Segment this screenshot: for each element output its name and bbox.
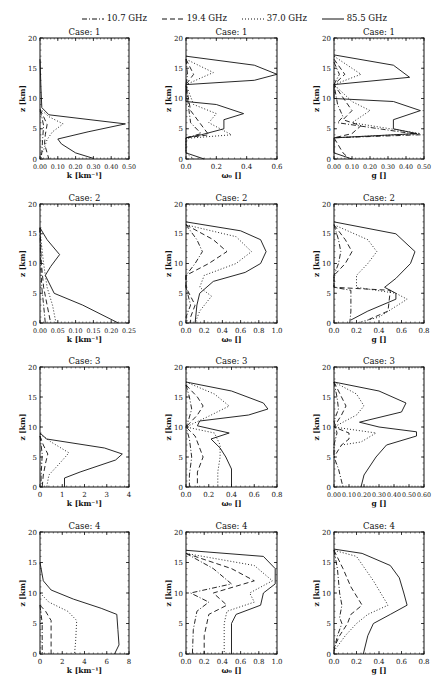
y-tick-label: 5 [33, 125, 37, 133]
y-tick-label: 15 [322, 394, 331, 402]
panel-title: Case: 1 [363, 27, 395, 37]
x-tick-label: 0.6 [271, 163, 283, 171]
series-line-107ghz [186, 385, 192, 487]
x-tick-label: 0.0 [180, 658, 191, 666]
series-line-194ghz [334, 59, 361, 158]
x-tick-label: 0.20 [357, 491, 371, 498]
x-tick-label: 0.00 [33, 163, 47, 170]
series-line-370ghz [186, 553, 272, 654]
x-axis-label: g [] [372, 666, 387, 675]
x-tick-label: 6 [105, 658, 110, 666]
x-axis-label: g [] [372, 499, 387, 508]
x-tick-label: 0.40 [387, 491, 401, 498]
y-axis-label: z [km] [164, 85, 173, 112]
y-tick-label: 0 [33, 484, 37, 492]
x-axis-label: k [km⁻¹] [67, 666, 102, 675]
x-axis-label: ω₀ [] [221, 499, 241, 508]
x-tick-label: 0.20 [363, 163, 377, 170]
y-tick-label: 15 [322, 65, 331, 73]
series-line-370ghz [186, 225, 252, 323]
y-tick-label: 5 [33, 454, 37, 462]
x-tick-label: 8 [127, 658, 131, 666]
x-tick-label: 0.20 [69, 163, 83, 170]
series-line-370ghz [186, 382, 229, 487]
plot-frame [186, 38, 277, 159]
x-tick-label: 0.8 [253, 327, 264, 335]
series-line-370ghz [40, 593, 77, 654]
series-line-855ghz [334, 222, 415, 320]
y-tick-label: 20 [322, 35, 331, 43]
x-axis-label: g [] [372, 171, 387, 180]
series-line-855ghz [40, 563, 119, 655]
y-tick-label: 15 [174, 230, 183, 238]
x-tick-label: 0.8 [271, 491, 282, 499]
x-tick-label: 0.2 [351, 327, 362, 335]
x-tick-label: 0.2 [351, 658, 362, 666]
x-axis-label: ω₀ [] [221, 335, 241, 344]
x-tick-label: 0.2 [199, 327, 210, 335]
x-tick-label: 0.50 [417, 163, 431, 170]
y-tick-label: 20 [174, 35, 183, 43]
x-tick-label: 0.2 [203, 491, 214, 499]
y-axis-label: z [km] [18, 250, 27, 277]
figure-panels-grid: Case: 1051015200.000.100.200.300.400.50k… [0, 0, 445, 687]
plot-frame [40, 367, 129, 487]
series-line-855ghz [334, 55, 420, 159]
plot-frame [186, 204, 277, 323]
y-tick-label: 5 [327, 620, 331, 628]
series-line-370ghz [186, 59, 232, 159]
y-tick-label: 10 [174, 95, 183, 103]
x-axis-label: k [km⁻¹] [67, 171, 102, 180]
x-tick-label: 0.10 [69, 327, 83, 334]
panel-title: Case: 3 [363, 356, 395, 366]
y-tick-label: 10 [28, 424, 37, 432]
x-axis-label: ω₀ [] [221, 666, 241, 675]
x-tick-label: 0.4 [217, 327, 229, 335]
y-tick-label: 15 [322, 230, 331, 238]
plot-frame [334, 38, 424, 159]
x-tick-label: 0.10 [342, 491, 356, 498]
y-tick-label: 20 [28, 35, 37, 43]
series-line-855ghz [186, 56, 277, 159]
x-tick-label: 0.8 [418, 658, 429, 666]
y-tick-label: 10 [322, 424, 331, 432]
y-tick-label: 10 [174, 590, 183, 598]
x-tick-label: 0.10 [51, 163, 65, 170]
x-tick-label: 0.2 [211, 163, 222, 171]
y-tick-label: 5 [33, 620, 37, 628]
x-tick-label: 1 [60, 491, 64, 499]
y-tick-label: 10 [174, 424, 183, 432]
y-tick-label: 20 [28, 201, 37, 209]
series-line-194ghz [334, 225, 390, 320]
series-line-107ghz [334, 225, 351, 323]
x-tick-label: 0.4 [217, 658, 229, 666]
y-axis-label: z [km] [164, 579, 173, 606]
y-tick-label: 5 [179, 125, 183, 133]
panel-title: Case: 1 [69, 27, 101, 37]
x-tick-label: 4 [82, 658, 87, 666]
y-tick-label: 15 [174, 394, 183, 402]
x-tick-label: 0.40 [104, 163, 118, 170]
x-tick-label: 0.2 [199, 658, 210, 666]
y-tick-label: 20 [322, 364, 331, 372]
y-tick-label: 10 [28, 260, 37, 268]
series-line-855ghz [334, 549, 407, 654]
series-line-855ghz [186, 550, 275, 654]
y-tick-label: 15 [28, 394, 37, 402]
y-tick-label: 10 [28, 95, 37, 103]
x-tick-label: 0.25 [122, 327, 136, 334]
y-tick-label: 10 [322, 260, 331, 268]
y-tick-label: 10 [174, 260, 183, 268]
x-tick-label: 0.6 [396, 327, 408, 335]
panel-title: Case: 4 [363, 521, 395, 531]
y-tick-label: 20 [322, 529, 331, 537]
x-tick-label: 0 [38, 658, 42, 666]
series-line-855ghz [186, 222, 266, 323]
panel-title: Case: 2 [363, 193, 395, 203]
series-line-370ghz [334, 550, 388, 651]
y-tick-label: 10 [28, 590, 37, 598]
x-tick-label: 1.0 [271, 658, 282, 666]
y-tick-label: 15 [322, 559, 331, 567]
x-axis-label: g [] [372, 335, 387, 344]
x-tick-label: 0.30 [372, 491, 386, 498]
